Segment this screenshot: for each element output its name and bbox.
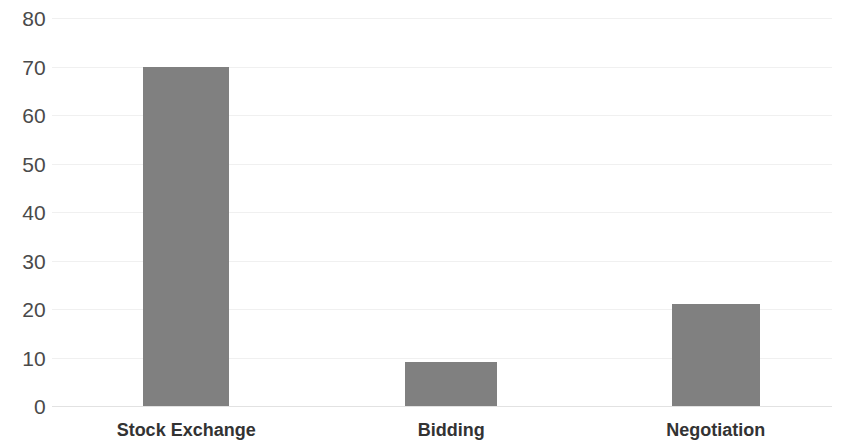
y-axis-tick-label: 10 [0, 348, 46, 369]
bar[interactable] [672, 304, 760, 406]
y-axis-tick-label: 60 [0, 105, 46, 126]
x-axis: Stock ExchangeBiddingNegotiation [52, 418, 832, 445]
bars-layer [52, 18, 832, 406]
x-axis-category-label: Bidding [418, 418, 485, 442]
y-axis-tick-label: 20 [0, 299, 46, 320]
bar[interactable] [405, 362, 497, 406]
bar-chart: 01020304050607080 Stock ExchangeBiddingN… [0, 0, 846, 445]
y-axis-tick-label: 30 [0, 251, 46, 272]
y-axis: 01020304050607080 [0, 0, 46, 445]
bar[interactable] [143, 67, 229, 407]
y-axis-tick-label: 70 [0, 57, 46, 78]
x-axis-category-label: Stock Exchange [117, 418, 256, 442]
x-axis-category-label: Negotiation [666, 418, 765, 442]
y-axis-tick-label: 40 [0, 202, 46, 223]
y-axis-tick-label: 50 [0, 154, 46, 175]
x-axis-line [52, 406, 832, 407]
y-axis-tick-label: 0 [0, 396, 46, 417]
y-axis-tick-label: 80 [0, 8, 46, 29]
